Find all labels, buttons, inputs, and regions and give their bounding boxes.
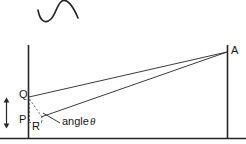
ray-q-to-a (29, 52, 227, 97)
dashed-segment-q-r (30, 99, 43, 117)
point-label-r: R (32, 121, 40, 132)
distance-double-arrow (4, 98, 10, 129)
angle-annotation: angleθ (62, 116, 95, 127)
diagram-canvas: Q P R A angleθ (0, 0, 246, 144)
point-label-a: A (231, 45, 238, 56)
sine-wave-curve (38, 0, 78, 21)
angle-annotation-word: angle (62, 115, 89, 127)
point-label-q: Q (19, 89, 28, 100)
ray-r-to-a (41, 52, 227, 117)
point-label-p: P (19, 114, 26, 125)
angle-annotation-symbol: θ (89, 115, 95, 127)
angle-leader-line (43, 113, 60, 123)
